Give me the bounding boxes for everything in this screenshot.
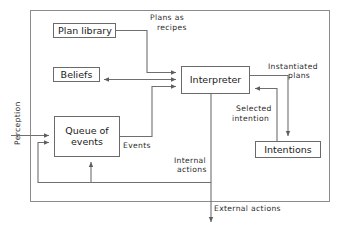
beliefs-label: Beliefs	[61, 69, 93, 80]
node-plan-library[interactable]: Plan library	[54, 24, 116, 38]
label-instantiated-plans: Instantiated plans	[268, 62, 318, 81]
node-beliefs[interactable]: Beliefs	[54, 68, 100, 82]
label-events: Events	[123, 141, 151, 150]
diagram-canvas: Plan library Beliefs Interpreter Queue o…	[0, 0, 339, 234]
external-actions-label: External actions	[214, 204, 281, 213]
node-intentions[interactable]: Intentions	[256, 142, 321, 158]
bdi-architecture-diagram: Plan library Beliefs Interpreter Queue o…	[0, 0, 339, 234]
edge-plan-library-to-interpreter	[116, 31, 176, 73]
queue-of-events-label-line2: events	[71, 136, 103, 147]
instantiated-plans-line2: plans	[288, 71, 310, 80]
plan-library-label: Plan library	[58, 25, 112, 36]
events-label: Events	[123, 141, 151, 150]
label-selected-intention: Selected intention	[232, 104, 272, 123]
node-queue-of-events[interactable]: Queue of events	[55, 117, 120, 157]
selected-intention-line2: intention	[232, 114, 269, 123]
label-internal-actions: Internal actions	[174, 156, 207, 175]
node-interpreter[interactable]: Interpreter	[182, 67, 250, 94]
internal-actions-line2: actions	[177, 165, 207, 174]
edge-queue-to-interpreter	[120, 87, 176, 137]
instantiated-plans-line1: Instantiated	[268, 62, 318, 71]
label-external-actions: External actions	[214, 204, 281, 213]
selected-intention-line1: Selected	[236, 104, 272, 113]
intentions-label: Intentions	[264, 144, 312, 155]
label-perception: Perception	[13, 101, 22, 145]
queue-of-events-label-line1: Queue of	[65, 125, 109, 136]
interpreter-label: Interpreter	[190, 74, 241, 85]
perception-label: Perception	[13, 101, 22, 145]
internal-actions-line1: Internal	[174, 156, 206, 165]
plans-as-recipes-line1: Plans as	[150, 13, 184, 22]
plans-as-recipes-line2: recipes	[157, 23, 187, 32]
label-plans-as-recipes: Plans as recipes	[150, 13, 187, 32]
